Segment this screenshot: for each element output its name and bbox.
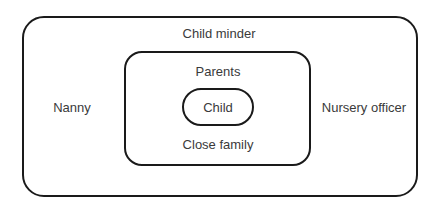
label-nursery-officer: Nursery officer: [322, 100, 406, 115]
label-parents: Parents: [196, 64, 241, 79]
label-child-minder: Child minder: [183, 26, 256, 41]
label-close-family: Close family: [183, 137, 254, 152]
label-child: Child: [203, 100, 233, 115]
label-nanny: Nanny: [53, 100, 91, 115]
